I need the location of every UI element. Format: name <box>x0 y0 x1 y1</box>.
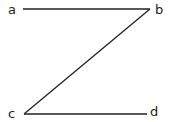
diagram-canvas: a b c d <box>0 0 172 122</box>
label-a: a <box>8 2 16 17</box>
label-d: d <box>150 104 158 119</box>
diagram: a b c d <box>0 0 172 122</box>
label-b: b <box>155 2 163 17</box>
segment-b-c <box>24 9 150 114</box>
label-c: c <box>8 106 15 121</box>
